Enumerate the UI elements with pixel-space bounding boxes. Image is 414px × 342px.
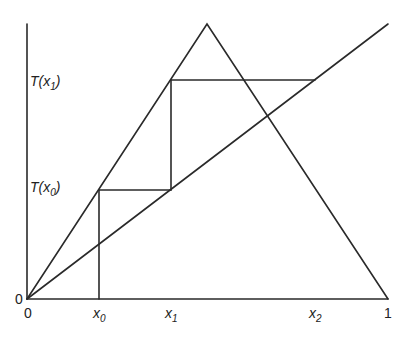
y-label-tx0: T(x0) <box>30 179 60 198</box>
x-label-x0: x0 <box>92 305 106 324</box>
x-label-x1: x1 <box>164 305 178 324</box>
identity-diagonal <box>27 24 388 299</box>
x-label-x2: x2 <box>308 305 322 324</box>
x-end-label: 1 <box>384 305 392 321</box>
origin-x-label: 0 <box>24 305 32 321</box>
y-label-tx1: T(x1) <box>30 73 60 92</box>
origin-y-label: 0 <box>15 291 23 307</box>
cobweb-diagram: T(x1) T(x0) 0 0 x0 x1 x2 1 <box>0 0 414 342</box>
